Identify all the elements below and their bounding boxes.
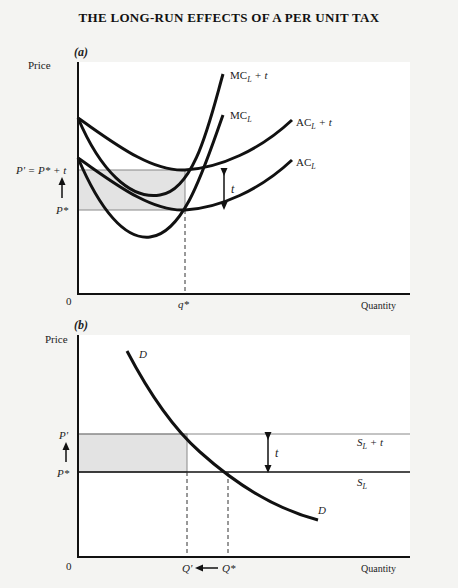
tax-shaded-area-b <box>78 434 187 472</box>
x-axis-label-b: Quantity <box>361 563 396 574</box>
origin-label-b: 0 <box>66 560 72 572</box>
x-axis-label-a: Quantity <box>361 300 396 311</box>
p-prime-equals-label: P' = P* + t <box>15 164 67 176</box>
q-prime-label: Q' <box>182 562 193 574</box>
q-star-label-b: Q* <box>222 562 236 574</box>
panel-a: (a) Price t MCL + t MCL ACL + t ACL P' =… <box>15 45 410 311</box>
figure: (a) Price t MCL + t MCL ACL + t ACL P' =… <box>0 0 458 588</box>
p-star-label-a: P* <box>55 204 69 216</box>
demand-label-bottom: D <box>317 504 326 516</box>
y-axis-label-a: Price <box>28 59 51 71</box>
p-prime-label-b: P' <box>58 429 69 441</box>
panel-b-label: (b) <box>74 318 88 332</box>
y-axis-label-b: Price <box>45 333 68 345</box>
panel-b: (b) Price t D D SL + t SL P' P* 0 Q' Q* … <box>45 318 410 574</box>
panel-a-label: (a) <box>74 45 88 59</box>
demand-label-top: D <box>138 348 147 360</box>
origin-label-a: 0 <box>66 295 72 307</box>
p-star-label-b: P* <box>56 467 70 479</box>
q-star-label: q* <box>178 298 190 310</box>
